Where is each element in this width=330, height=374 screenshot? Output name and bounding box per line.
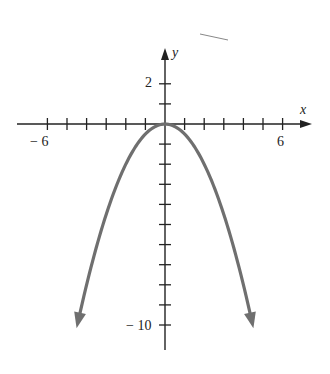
- y-tick-label-neg10: − 10: [126, 318, 151, 333]
- curve-arrow-left-icon: [74, 311, 86, 328]
- x-tick-label-neg6: − 6: [30, 134, 48, 149]
- y-axis-arrow-icon: [161, 48, 169, 60]
- y-axis-label: y: [170, 45, 179, 60]
- y-tick-label-2: 2: [145, 75, 152, 90]
- x-axis-label: x: [299, 102, 307, 117]
- curve-arrow-right-icon: [244, 311, 256, 328]
- stray-mark: [200, 34, 228, 40]
- x-tick-label-6: 6: [277, 134, 284, 149]
- x-axis-arrow-icon: [300, 120, 312, 128]
- axes: [17, 48, 312, 350]
- parabola-plot: y x − 6 6 2 − 10: [0, 0, 330, 374]
